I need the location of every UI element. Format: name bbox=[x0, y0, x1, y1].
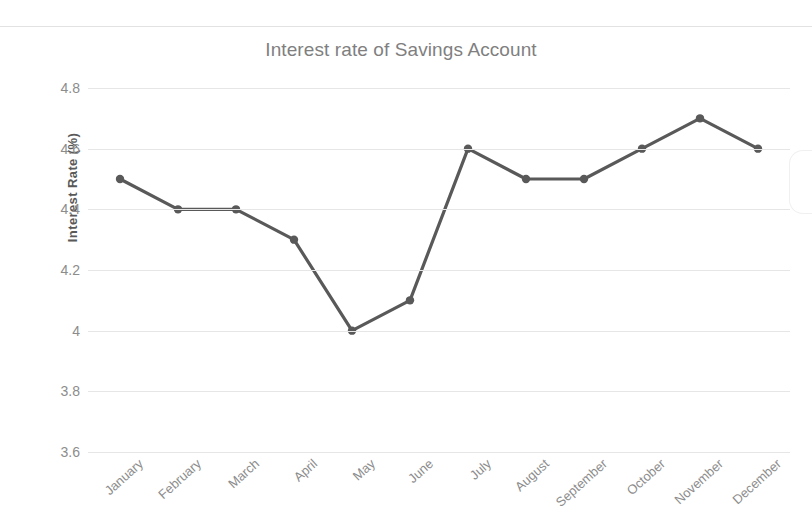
y-axis-tick-labels: 4.84.64.44.243.83.6 bbox=[36, 88, 80, 452]
x-axis-tick-label: August bbox=[512, 456, 552, 494]
gridline bbox=[88, 88, 790, 89]
x-axis-tick-label: November bbox=[671, 456, 726, 507]
x-axis-tick-label: June bbox=[405, 456, 436, 486]
chart-container: Interest rate of Savings Account Interes… bbox=[0, 0, 812, 532]
data-point-marker[interactable] bbox=[696, 114, 704, 122]
y-axis-tick-label: 4.2 bbox=[40, 262, 80, 278]
y-axis-tick-label: 3.8 bbox=[40, 383, 80, 399]
right-edge-handle-artifact bbox=[789, 150, 812, 214]
x-axis-tick-label: September bbox=[553, 456, 610, 510]
gridline bbox=[88, 452, 790, 453]
x-axis-tick-label: February bbox=[155, 456, 204, 502]
gridline bbox=[88, 331, 790, 332]
y-axis-tick-label: 4 bbox=[40, 323, 80, 339]
x-axis-tick-label: July bbox=[467, 456, 494, 483]
plot-area bbox=[88, 88, 790, 452]
chart-title: Interest rate of Savings Account bbox=[0, 39, 807, 61]
gridline bbox=[88, 149, 790, 150]
data-point-marker[interactable] bbox=[522, 175, 530, 183]
gridline bbox=[88, 391, 790, 392]
data-point-marker[interactable] bbox=[580, 175, 588, 183]
x-axis-tick-label: October bbox=[624, 456, 668, 498]
data-point-marker[interactable] bbox=[116, 175, 124, 183]
gridline bbox=[88, 209, 790, 210]
series-line bbox=[120, 118, 758, 330]
y-axis-tick-label: 4.4 bbox=[40, 201, 80, 217]
chart-top-border bbox=[0, 26, 812, 27]
data-point-marker[interactable] bbox=[406, 296, 414, 304]
x-axis-tick-label: March bbox=[225, 456, 262, 491]
x-axis-tick-label: May bbox=[350, 456, 378, 484]
x-axis-tick-label: December bbox=[729, 456, 784, 507]
x-axis-tick-label: January bbox=[102, 456, 146, 498]
data-point-marker[interactable] bbox=[290, 235, 298, 243]
gridline bbox=[88, 270, 790, 271]
y-axis-tick-label: 4.8 bbox=[40, 80, 80, 96]
x-axis-tick-labels: JanuaryFebruaryMarchAprilMayJuneJulyAugu… bbox=[88, 456, 790, 532]
y-axis-tick-label: 4.6 bbox=[40, 141, 80, 157]
x-axis-tick-label: April bbox=[291, 456, 320, 485]
y-axis-tick-label: 3.6 bbox=[40, 444, 80, 460]
